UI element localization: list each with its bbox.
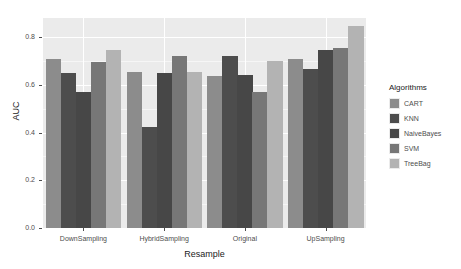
legend-item-cart[interactable]: CART (389, 96, 461, 110)
legend-items: CARTKNNNaiveBayesSVMTreeBag (389, 96, 461, 170)
bar (91, 62, 106, 228)
y-tick-mark (39, 133, 42, 134)
y-tick-label: 0.6 (9, 81, 35, 89)
x-tick-mark (326, 228, 327, 231)
bar (348, 26, 363, 228)
y-tick-mark (39, 85, 42, 86)
x-tick-mark (83, 228, 84, 231)
legend-key (389, 128, 400, 139)
bar (172, 56, 187, 228)
bar (267, 61, 282, 228)
legend-item-naivebayes[interactable]: NaiveBayes (389, 126, 461, 140)
bar (76, 92, 91, 229)
bar (142, 127, 157, 228)
legend-swatch-naivebayes (390, 129, 399, 138)
legend-item-treebag[interactable]: TreeBag (389, 156, 461, 170)
bar (106, 50, 121, 229)
legend-key (389, 158, 400, 169)
bar (222, 56, 237, 228)
legend-item-svm[interactable]: SVM (389, 141, 461, 155)
legend: Algorithms CARTKNNNaiveBayesSVMTreeBag (389, 83, 461, 171)
bar (187, 72, 202, 228)
legend-title: Algorithms (389, 83, 461, 92)
x-tick-label: Original (200, 234, 290, 243)
x-tick-label: UpSampling (281, 234, 371, 243)
legend-swatch-treebag (390, 159, 399, 168)
bar (237, 75, 252, 228)
y-tick-mark (39, 180, 42, 181)
legend-label: TreeBag (404, 160, 431, 167)
x-tick-label: DownSampling (38, 234, 128, 243)
y-tick-mark (39, 37, 42, 38)
legend-swatch-knn (390, 114, 399, 123)
legend-key (389, 143, 400, 154)
y-axis-title: AUC (11, 91, 21, 131)
bar (127, 72, 142, 228)
plot-panel (43, 18, 366, 228)
legend-key (389, 98, 400, 109)
y-tick-mark (39, 228, 42, 229)
y-tick-label: 0.2 (9, 176, 35, 184)
legend-label: SVM (404, 145, 419, 152)
bar (46, 59, 61, 228)
legend-label: CART (404, 100, 423, 107)
bar (318, 50, 333, 228)
legend-label: NaiveBayes (404, 130, 441, 137)
legend-key (389, 113, 400, 124)
x-tick-mark (164, 228, 165, 231)
y-tick-label: 0.8 (9, 33, 35, 41)
bar (207, 76, 222, 228)
x-tick-mark (245, 228, 246, 231)
bar (333, 48, 348, 228)
bar (252, 92, 267, 229)
x-axis-title: Resample (43, 249, 366, 259)
y-tick-label: 0.0 (9, 224, 35, 232)
x-tick-label: HybridSampling (119, 234, 209, 243)
bar (303, 69, 318, 228)
chart-root: 0.00.20.40.60.8 DownSamplingHybridSampli… (0, 0, 461, 269)
legend-swatch-svm (390, 144, 399, 153)
bar (61, 73, 76, 228)
legend-label: KNN (404, 115, 419, 122)
legend-item-knn[interactable]: KNN (389, 111, 461, 125)
bar-series-container (43, 18, 366, 228)
bar (157, 73, 172, 228)
bar (288, 59, 303, 228)
legend-swatch-cart (390, 99, 399, 108)
